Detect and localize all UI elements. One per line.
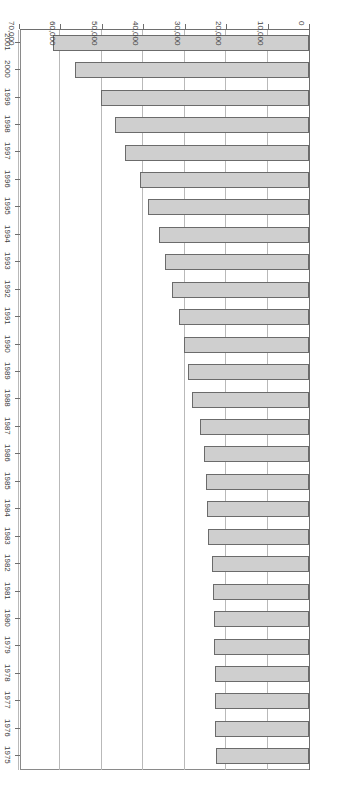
value-tick-10000 (268, 24, 269, 29)
bar-1980[interactable] (214, 611, 309, 627)
category-tick-label-1990: 1990 (3, 335, 12, 353)
bar-1998[interactable] (115, 117, 309, 133)
bar-row (20, 358, 309, 385)
category-tick-label-1999: 1999 (3, 88, 12, 106)
bar-1992[interactable] (172, 282, 309, 298)
category-tick-label-1975: 1975 (3, 746, 12, 764)
category-tick-1975 (15, 755, 20, 756)
bar-row (20, 715, 309, 742)
value-tick-label-0: 0 (297, 21, 306, 25)
bar-1993[interactable] (165, 254, 309, 270)
bar-1987[interactable] (200, 419, 309, 435)
category-tick-1992 (15, 289, 20, 290)
category-tick-label-1995: 1995 (3, 197, 12, 215)
value-tick-70000 (19, 24, 20, 29)
bar-1986[interactable] (204, 446, 309, 462)
bar-1999[interactable] (101, 90, 309, 106)
gridline-70000 (18, 30, 19, 770)
bar-1977[interactable] (215, 693, 309, 709)
bar-row (20, 194, 309, 221)
bar-1994[interactable] (159, 227, 309, 243)
bar-1988[interactable] (192, 392, 309, 408)
category-tick-1995 (15, 206, 20, 207)
bar-1984[interactable] (207, 501, 309, 517)
category-tick-label-1993: 1993 (3, 252, 12, 270)
bar-row (20, 523, 309, 550)
category-tick-1987 (15, 426, 20, 427)
value-tick-label-20000: 20,000 (214, 21, 223, 45)
value-tick-30000 (185, 24, 186, 29)
value-tick-50000 (102, 24, 103, 29)
bar-row (20, 496, 309, 523)
value-tick-label-40000: 40,000 (131, 21, 140, 45)
bar-row (20, 386, 309, 413)
bar-1983[interactable] (208, 529, 309, 545)
category-tick-1997 (15, 152, 20, 153)
category-tick-1976 (15, 728, 20, 729)
category-tick-label-1980: 1980 (3, 609, 12, 627)
category-tick-label-1996: 1996 (3, 170, 12, 188)
category-tick-label-1977: 1977 (3, 691, 12, 709)
bar-row (20, 276, 309, 303)
bar-row (20, 550, 309, 577)
bar-row (20, 29, 309, 56)
bar-row (20, 84, 309, 111)
bar-1996[interactable] (140, 172, 309, 188)
category-tick-1993 (15, 261, 20, 262)
category-tick-label-1983: 1983 (3, 527, 12, 545)
bar-row (20, 249, 309, 276)
category-tick-1977 (15, 700, 20, 701)
category-tick-1982 (15, 563, 20, 564)
bar-1982[interactable] (212, 556, 309, 572)
bar-1997[interactable] (125, 145, 309, 161)
bar-row (20, 56, 309, 83)
value-tick-label-60000: 60,000 (48, 21, 57, 45)
category-tick-label-1978: 1978 (3, 664, 12, 682)
value-tick-40000 (143, 24, 144, 29)
bar-row (20, 578, 309, 605)
bar-row (20, 303, 309, 330)
category-tick-label-1981: 1981 (3, 582, 12, 600)
category-tick-1994 (15, 234, 20, 235)
bar-2000[interactable] (75, 62, 309, 78)
figure-rotator: 010,00020,00030,00040,00050,00060,00070,… (0, 0, 364, 803)
category-tick-label-2001: 2001 (3, 33, 12, 51)
category-tick-1980 (15, 618, 20, 619)
category-tick-1991 (15, 316, 20, 317)
bar-1978[interactable] (215, 666, 309, 682)
category-tick-1984 (15, 508, 20, 509)
bar-1979[interactable] (214, 639, 309, 655)
bar-1981[interactable] (213, 584, 309, 600)
category-tick-label-2000: 2000 (3, 60, 12, 78)
bar-1995[interactable] (148, 199, 309, 215)
value-tick-20000 (226, 24, 227, 29)
bar-1976[interactable] (215, 721, 309, 737)
value-tick-0 (309, 24, 310, 29)
bar-1989[interactable] (188, 364, 309, 380)
bar-1991[interactable] (179, 309, 309, 325)
value-tick-label-10000: 10,000 (256, 21, 265, 45)
category-tick-1985 (15, 481, 20, 482)
bar-1975[interactable] (216, 748, 309, 764)
category-tick-label-1987: 1987 (3, 417, 12, 435)
category-tick-1989 (15, 371, 20, 372)
bar-1990[interactable] (184, 337, 309, 353)
bar-row (20, 660, 309, 687)
bar-row (20, 605, 309, 632)
bar-row (20, 166, 309, 193)
bar-row (20, 111, 309, 138)
bar-1985[interactable] (206, 474, 309, 490)
category-tick-1981 (15, 591, 20, 592)
category-tick-label-1998: 1998 (3, 115, 12, 133)
value-tick-label-50000: 50,000 (90, 21, 99, 45)
category-tick-1979 (15, 646, 20, 647)
bar-row (20, 468, 309, 495)
category-tick-1996 (15, 179, 20, 180)
category-tick-label-1989: 1989 (3, 362, 12, 380)
category-tick-label-1992: 1992 (3, 280, 12, 298)
value-tick-label-30000: 30,000 (173, 21, 182, 45)
category-tick-label-1994: 1994 (3, 225, 12, 243)
bar-row (20, 413, 309, 440)
category-tick-label-1988: 1988 (3, 390, 12, 408)
category-tick-1990 (15, 344, 20, 345)
